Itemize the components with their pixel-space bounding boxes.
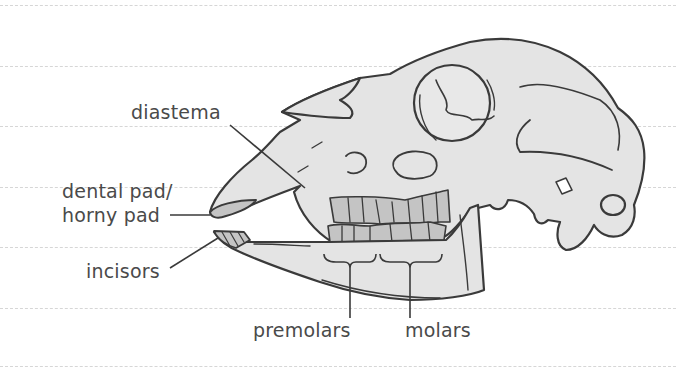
label-dental-pad-line2: horny pad	[62, 204, 160, 226]
leader-incisors	[170, 238, 218, 268]
label-molars: molars	[405, 319, 471, 341]
condyle	[601, 195, 625, 215]
label-dental-pad-line1: dental pad/	[62, 180, 173, 202]
skull-diagram: diastema dental pad/ horny pad incisors …	[0, 0, 676, 369]
label-incisors: incisors	[86, 260, 160, 282]
label-diastema: diastema	[131, 101, 221, 123]
eye-orbit	[414, 65, 490, 141]
label-premolars: premolars	[253, 319, 351, 341]
